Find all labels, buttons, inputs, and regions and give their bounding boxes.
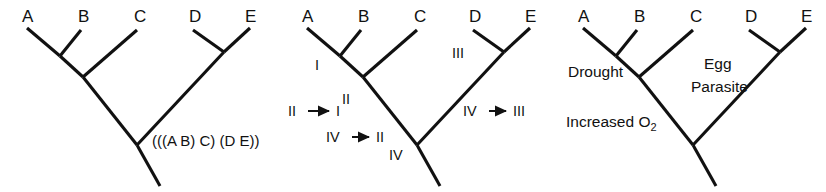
branch-root-stem — [693, 145, 716, 186]
branch-root-stem — [417, 145, 440, 186]
selective-pressure-tree-svg: A B C D E Drought Egg Parasite Increased… — [556, 0, 826, 192]
tip-label-c: C — [414, 7, 426, 26]
node-state-label-iv: IV — [389, 147, 403, 163]
transition-to-ii: II — [376, 129, 384, 145]
transition-to-iii: III — [513, 103, 525, 119]
branch-tip-a — [583, 28, 616, 56]
tip-label-c: C — [690, 7, 702, 26]
branch-internal-abc — [83, 77, 137, 145]
branch-internal-abc — [639, 77, 693, 145]
branch-tip-c — [639, 30, 693, 77]
branch-tip-b — [340, 30, 361, 56]
topology-tree-svg: A B C D E (((A B) C) (D E)) — [0, 0, 280, 192]
tip-label-d: D — [745, 7, 757, 26]
branch-internal-abc — [363, 77, 417, 145]
tip-label-d: D — [189, 7, 201, 26]
tip-label-b: B — [78, 7, 89, 26]
transition-to-i: I — [336, 103, 340, 119]
character-state-tree-svg: A B C D E I II IV III II I IV II I — [280, 0, 556, 192]
node-state-label-i: I — [315, 57, 319, 73]
tip-label-a: A — [22, 7, 34, 26]
selective-pressure-panel: A B C D E Drought Egg Parasite Increased… — [556, 0, 826, 192]
character-state-panel: A B C D E I II IV III II I IV II I — [280, 0, 556, 192]
topology-panel: A B C D E (((A B) C) (D E)) — [0, 0, 280, 192]
branch-internal-ab — [340, 56, 363, 77]
branch-tip-d — [749, 30, 780, 52]
branch-internal-ab — [60, 56, 83, 77]
branch-tip-e — [504, 28, 530, 52]
tip-label-e: E — [801, 7, 812, 26]
trait-label-parasite: Parasite — [691, 78, 748, 95]
phylogenetic-trees-figure: A B C D E (((A B) C) (D E)) A — [0, 0, 826, 192]
trait-label-increased-o2-subscript: 2 — [650, 121, 656, 133]
tip-label-c: C — [134, 7, 146, 26]
transition-from-ii: II — [288, 103, 296, 119]
tip-label-e: E — [245, 7, 256, 26]
branch-tip-d — [193, 30, 224, 52]
tip-label-e: E — [525, 7, 536, 26]
transition-iv-to-ii: IV II — [326, 129, 384, 145]
branch-tip-b — [60, 30, 81, 56]
branch-internal-de — [417, 52, 504, 145]
branch-tip-a — [27, 28, 60, 56]
tip-label-a: A — [578, 7, 590, 26]
tip-label-a: A — [302, 7, 314, 26]
trait-label-egg: Egg — [704, 55, 732, 72]
branch-tip-e — [224, 28, 250, 52]
branch-tip-b — [616, 30, 637, 56]
transition-iv-to-iii: IV III — [463, 103, 525, 119]
tip-label-b: B — [358, 7, 369, 26]
tip-label-d: D — [469, 7, 481, 26]
transition-from-iv: IV — [463, 103, 477, 119]
node-state-label-ii: II — [342, 91, 350, 107]
branch-root-stem — [137, 145, 160, 186]
tip-label-b: B — [634, 7, 645, 26]
branch-tip-d — [473, 30, 504, 52]
trait-label-increased-o2: Increased O2 — [566, 113, 657, 133]
transition-ii-to-i: II I — [288, 103, 340, 119]
branch-tip-a — [307, 28, 340, 56]
node-state-label-iii: III — [452, 45, 464, 61]
branch-tip-c — [83, 30, 137, 77]
trait-label-increased-o2-main: Increased O — [566, 113, 650, 130]
branch-tip-c — [363, 30, 417, 77]
trait-label-drought: Drought — [568, 63, 624, 80]
newick-string-label: (((A B) C) (D E)) — [152, 132, 259, 149]
branch-tip-e — [780, 28, 806, 52]
transition-from-iv: IV — [326, 129, 340, 145]
